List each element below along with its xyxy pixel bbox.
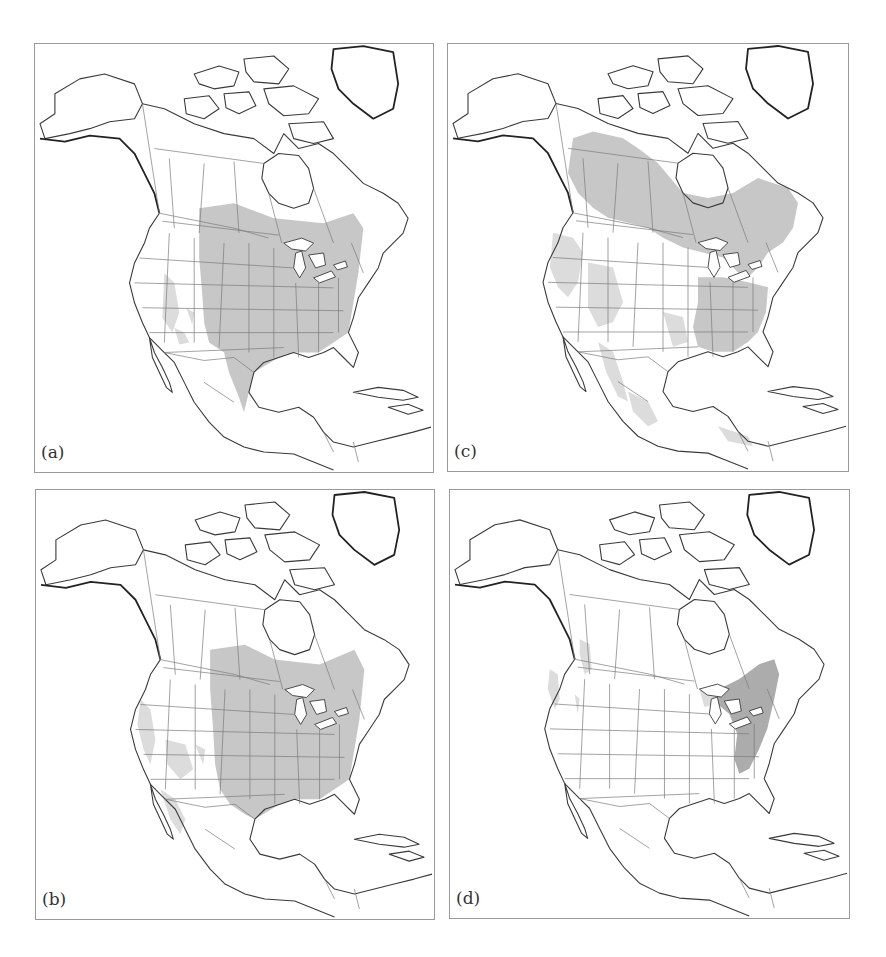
north-america-map-c [448, 44, 848, 471]
map-panel-d: (d) [449, 489, 850, 919]
north-america-map-b [36, 490, 434, 919]
north-america-map-a [35, 44, 433, 472]
map-panel-a: (a) [34, 43, 434, 473]
north-america-map-d [450, 490, 849, 918]
map-panel-b: (b) [35, 489, 435, 920]
panel-label-b: (b) [42, 889, 66, 909]
panel-label-d: (d) [456, 888, 480, 908]
panel-label-c: (c) [454, 441, 477, 461]
panel-label-a: (a) [41, 442, 64, 462]
map-panel-c: (c) [447, 43, 849, 472]
